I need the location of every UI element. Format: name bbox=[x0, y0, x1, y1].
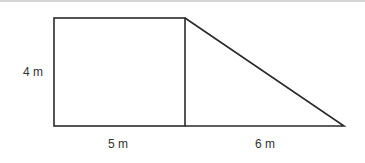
rect-width-label: 5 m bbox=[108, 137, 128, 151]
height-label: 4 m bbox=[23, 65, 43, 79]
triangle-base-label: 6 m bbox=[255, 137, 275, 151]
right-triangle-shape bbox=[185, 18, 344, 126]
rectangle-shape bbox=[54, 18, 185, 126]
composite-shape-diagram: 4 m 5 m 6 m bbox=[0, 0, 365, 163]
